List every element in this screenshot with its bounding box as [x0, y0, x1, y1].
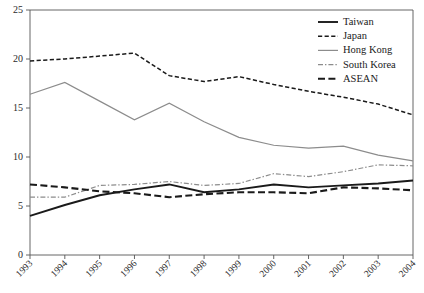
legend-label-hong-kong: Hong Kong — [343, 44, 393, 55]
line-chart-figure: 0510152025 19931994199519961997199819992… — [0, 0, 424, 293]
y-tick-label: 20 — [13, 53, 23, 64]
y-tick-label: 25 — [13, 4, 23, 15]
y-tick-label: 10 — [13, 151, 23, 162]
chart-canvas: 0510152025 19931994199519961997199819992… — [0, 0, 424, 293]
y-tick-label: 15 — [13, 102, 23, 113]
y-tick-label: 0 — [18, 249, 23, 260]
y-tick-label: 5 — [18, 200, 23, 211]
legend-label-taiwan: Taiwan — [343, 16, 375, 27]
legend-label-japan: Japan — [343, 30, 368, 41]
legend-label-asean: ASEAN — [343, 73, 378, 84]
legend-label-south-korea: South Korea — [343, 59, 396, 70]
